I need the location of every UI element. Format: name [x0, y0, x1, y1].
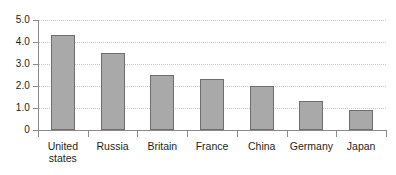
x-separator-tick — [386, 130, 387, 137]
gridline — [38, 64, 386, 65]
y-tick-label: 3.0 — [16, 59, 30, 69]
x-separator-tick — [336, 130, 337, 137]
bar-chart: 01.02.03.04.05.0 United statesRussiaBrit… — [0, 0, 396, 175]
bar — [349, 110, 373, 130]
y-tick-mark — [33, 42, 39, 43]
bar — [299, 101, 323, 130]
bar — [250, 86, 274, 130]
y-tick-mark — [33, 64, 39, 65]
y-tick-label: 1.0 — [16, 103, 30, 113]
y-tick-mark — [33, 86, 39, 87]
gridline — [38, 20, 386, 21]
x-separator-tick — [287, 130, 288, 137]
x-category-label: Japan — [336, 140, 386, 152]
y-tick-label: 0 — [24, 125, 30, 135]
y-tick-label: 4.0 — [16, 37, 30, 47]
y-tick-mark — [33, 20, 39, 21]
bar — [150, 75, 174, 130]
x-category-label: China — [237, 140, 287, 152]
bar — [51, 35, 75, 130]
x-separator-tick — [137, 130, 138, 137]
y-tick-label: 5.0 — [16, 15, 30, 25]
bar — [200, 79, 224, 130]
x-category-label: Germany — [287, 140, 337, 152]
x-category-label: Russia — [88, 140, 138, 152]
x-category-label: Britain — [137, 140, 187, 152]
y-tick-mark — [33, 108, 39, 109]
bar — [101, 53, 125, 130]
x-separator-tick — [187, 130, 188, 137]
gridline — [38, 42, 386, 43]
x-separator-tick — [237, 130, 238, 137]
x-category-label: France — [187, 140, 237, 152]
x-separator-tick — [88, 130, 89, 137]
x-axis-line — [38, 130, 386, 131]
x-separator-tick — [38, 130, 39, 137]
plot-area — [38, 14, 386, 130]
y-axis-line — [38, 20, 39, 130]
y-tick-label: 2.0 — [16, 81, 30, 91]
x-category-label: United states — [38, 140, 88, 164]
